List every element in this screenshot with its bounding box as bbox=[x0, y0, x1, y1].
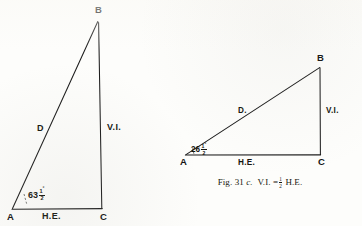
left-vertex-label-c: C bbox=[100, 212, 107, 222]
right-vertex-label-a: A bbox=[180, 157, 187, 167]
right-angle-fraction: 1° 2 bbox=[201, 142, 206, 155]
figure-caption: Fig. 31 c. V.I. =12 H.E. bbox=[185, 177, 335, 189]
left-angle-denominator: 2 bbox=[40, 196, 43, 202]
figure-line-art bbox=[0, 0, 362, 226]
right-angle-whole: 26 bbox=[191, 146, 200, 154]
caption-prefix: Fig. 31 bbox=[218, 177, 244, 187]
right-side-label-vertical-vi: V.I. bbox=[326, 107, 339, 115]
caption-letter: c. bbox=[246, 177, 252, 187]
caption-fraction-denominator: 2 bbox=[279, 183, 282, 189]
left-angle-annotation: 63 1° 2 bbox=[28, 188, 45, 203]
right-side-label-horizontal-he: H.E. bbox=[238, 159, 255, 167]
caption-relation-left: V.I. = bbox=[257, 177, 278, 187]
left-angle-tick bbox=[24, 194, 27, 204]
left-angle-whole: 63 bbox=[28, 191, 38, 200]
left-angle-fraction: 1° 2 bbox=[39, 187, 45, 202]
right-vertex-label-c: C bbox=[318, 157, 325, 167]
left-hypotenuse-line bbox=[13, 22, 98, 209]
left-side-label-horizontal-he: H.E. bbox=[42, 212, 61, 221]
right-angle-annotation: 26 1° 2 bbox=[191, 143, 207, 156]
left-angle-arc bbox=[24, 194, 27, 204]
left-side-label-hypotenuse-d: D bbox=[37, 124, 44, 133]
left-baseline-line bbox=[12, 209, 102, 210]
left-vertical-line bbox=[99, 23, 102, 209]
caption-relation-right: H.E. bbox=[285, 177, 302, 187]
left-angle-degree-symbol: ° bbox=[43, 186, 45, 191]
caption-fraction: 12 bbox=[279, 177, 283, 189]
left-triangle-outline bbox=[12, 22, 102, 210]
right-angle-denominator: 2 bbox=[202, 150, 205, 155]
right-side-label-hypotenuse-d: D. bbox=[238, 107, 247, 115]
figure-page: B A C D V.I. H.E. 63 1° 2 B A C D. V.I. … bbox=[0, 0, 362, 226]
left-vertex-label-b: B bbox=[95, 5, 102, 15]
right-angle-degree-symbol: ° bbox=[204, 141, 206, 146]
left-side-label-vertical-vi: V.I. bbox=[107, 123, 121, 132]
right-vertex-label-b: B bbox=[317, 53, 324, 63]
left-vertex-label-a: A bbox=[7, 212, 14, 222]
